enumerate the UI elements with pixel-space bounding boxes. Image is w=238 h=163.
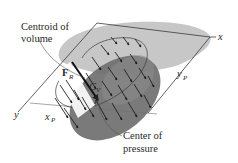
force-label: F	[62, 67, 68, 78]
xp-label-subscript: P	[50, 116, 56, 124]
centroid-label-line2: volume	[21, 33, 53, 44]
x-axis-label: x	[217, 31, 223, 42]
centroid-label-line1: Centroid of	[21, 21, 70, 32]
pressure-diagram: Centroid of volume F R C V P x y x P y P…	[0, 0, 238, 163]
point-p-label: P	[93, 98, 99, 106]
y-axis-label: y	[13, 109, 19, 120]
center-of-pressure-label-line1: Center of	[123, 130, 163, 141]
center-of-pressure-label-line2: pressure	[123, 143, 158, 154]
centroid-symbol-subscript: V	[96, 86, 101, 94]
force-label-subscript: R	[68, 73, 74, 81]
xp-label: x	[44, 111, 50, 122]
yp-label: y	[176, 68, 182, 79]
yp-label-subscript: P	[182, 74, 188, 82]
